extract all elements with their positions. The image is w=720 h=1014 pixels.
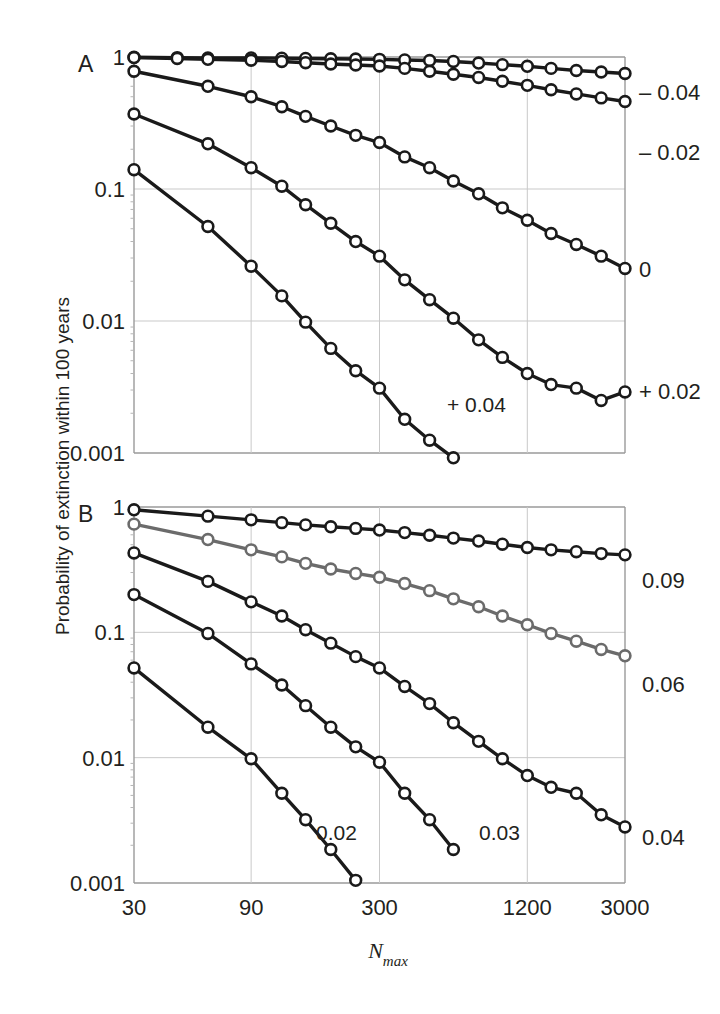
- data-point-marker: [203, 722, 214, 733]
- data-point-marker: [374, 61, 385, 72]
- data-point-marker: [276, 101, 287, 112]
- panel-letter-A: A: [78, 51, 94, 77]
- y-tick-label: 0.1: [94, 177, 125, 202]
- data-point-marker: [620, 822, 631, 833]
- data-point-marker: [571, 383, 582, 394]
- data-point-marker: [424, 814, 435, 825]
- data-point-marker: [300, 700, 311, 711]
- x-tick-label: 90: [239, 895, 263, 920]
- data-point-marker: [473, 536, 484, 547]
- data-point-marker: [276, 290, 287, 301]
- data-point-marker: [300, 199, 311, 210]
- data-point-marker: [399, 152, 410, 163]
- data-point-marker: [596, 395, 607, 406]
- panel-letter-B: B: [78, 501, 93, 527]
- data-point-marker: [350, 875, 361, 886]
- data-point-marker: [276, 680, 287, 691]
- data-point-marker: [473, 334, 484, 345]
- data-point-marker: [300, 558, 311, 569]
- data-point-marker: [497, 202, 508, 213]
- panelB-side-label-1: 0.06: [642, 672, 685, 697]
- data-point-marker: [374, 137, 385, 148]
- x-tick-label: 300: [361, 895, 398, 920]
- data-point-marker: [473, 188, 484, 199]
- panelA-inline-label-0: + 0.04: [447, 393, 506, 416]
- data-point-marker: [246, 544, 257, 555]
- y-tick-label: 0.001: [70, 441, 125, 466]
- data-point-marker: [620, 549, 631, 560]
- data-point-marker: [522, 368, 533, 379]
- data-point-marker: [596, 644, 607, 655]
- data-point-marker: [522, 80, 533, 91]
- data-point-marker: [571, 239, 582, 250]
- data-point-marker: [399, 414, 410, 425]
- data-point-marker: [399, 274, 410, 285]
- data-point-marker: [300, 814, 311, 825]
- panelB-side-label-0: 0.09: [642, 568, 685, 593]
- data-point-marker: [129, 109, 140, 120]
- data-point-marker: [276, 611, 287, 622]
- data-point-marker: [424, 698, 435, 709]
- data-point-marker: [596, 92, 607, 103]
- y-tick-label: 1: [113, 45, 125, 70]
- data-point-marker: [620, 263, 631, 274]
- data-point-marker: [129, 164, 140, 175]
- data-point-marker: [522, 61, 533, 72]
- data-point-marker: [374, 383, 385, 394]
- data-point-marker: [276, 551, 287, 562]
- data-point-marker: [350, 130, 361, 141]
- data-point-marker: [350, 568, 361, 579]
- data-point-marker: [276, 788, 287, 799]
- data-point-marker: [497, 753, 508, 764]
- series-line-0.02: [134, 668, 356, 880]
- data-point-marker: [620, 68, 631, 79]
- data-point-marker: [497, 611, 508, 622]
- data-point-marker: [522, 542, 533, 553]
- data-point-marker: [374, 572, 385, 583]
- data-point-marker: [325, 564, 336, 575]
- data-point-marker: [473, 58, 484, 69]
- data-point-marker: [246, 55, 257, 66]
- data-point-marker: [325, 521, 336, 532]
- data-point-marker: [203, 138, 214, 149]
- data-point-marker: [546, 63, 557, 74]
- data-point-marker: [276, 181, 287, 192]
- data-point-marker: [350, 365, 361, 376]
- y-tick-label: 0.01: [82, 746, 125, 771]
- data-point-marker: [497, 59, 508, 70]
- data-point-marker: [448, 56, 459, 67]
- data-point-marker: [172, 53, 183, 64]
- data-point-marker: [203, 81, 214, 92]
- data-point-marker: [129, 66, 140, 77]
- data-point-marker: [448, 452, 459, 463]
- data-point-marker: [546, 544, 557, 555]
- data-point-marker: [374, 757, 385, 768]
- data-point-marker: [497, 539, 508, 550]
- data-point-marker: [571, 636, 582, 647]
- panelB-inline-label-1: 0.03: [479, 821, 520, 844]
- data-point-marker: [374, 663, 385, 674]
- data-point-marker: [325, 121, 336, 132]
- data-point-marker: [350, 523, 361, 534]
- data-point-marker: [350, 236, 361, 247]
- y-tick-label: 0.1: [94, 620, 125, 645]
- data-point-marker: [399, 578, 410, 589]
- data-point-marker: [546, 628, 557, 639]
- data-point-marker: [571, 546, 582, 557]
- data-point-marker: [571, 89, 582, 100]
- data-point-marker: [399, 788, 410, 799]
- x-tick-label: 3000: [601, 895, 650, 920]
- data-point-marker: [129, 519, 140, 530]
- data-point-marker: [300, 57, 311, 68]
- data-point-marker: [350, 60, 361, 71]
- data-point-marker: [300, 519, 311, 530]
- data-point-marker: [350, 651, 361, 662]
- figure-root: Probability of extinction within 100 yea…: [0, 0, 720, 1014]
- chart-svg: A10.10.010.001B10.10.010.001– 0.04– 0.02…: [0, 0, 720, 1014]
- data-point-marker: [448, 313, 459, 324]
- data-point-marker: [424, 66, 435, 77]
- data-point-marker: [325, 722, 336, 733]
- data-point-marker: [325, 59, 336, 70]
- data-point-marker: [129, 52, 140, 63]
- data-point-marker: [473, 736, 484, 747]
